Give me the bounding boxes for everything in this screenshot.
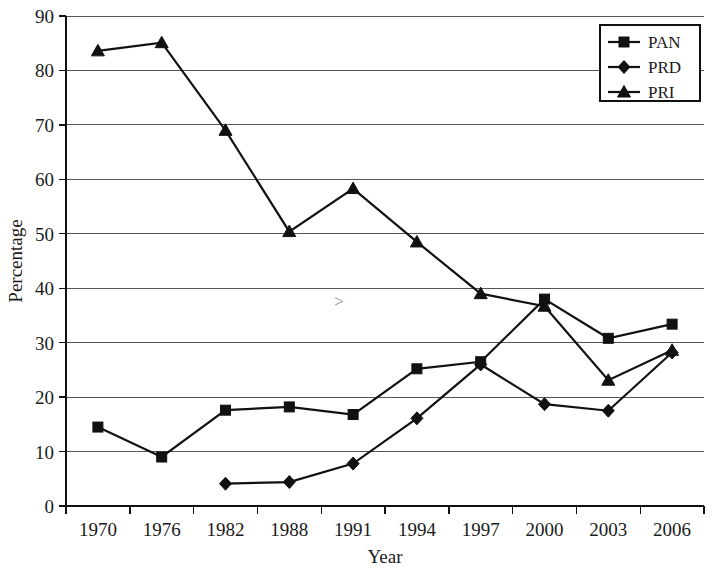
data-point-pan (221, 405, 231, 415)
data-point-pan (667, 319, 677, 329)
x-axis-title: Year (367, 546, 403, 567)
stray-glyph-annotation: > (334, 292, 344, 311)
data-point-pan (157, 452, 167, 462)
y-tick-label: 40 (35, 278, 54, 299)
y-axis-title: Percentage (5, 219, 26, 302)
data-point-pan (603, 333, 613, 343)
data-point-pan (93, 422, 103, 432)
chart-annotations: > (334, 292, 344, 311)
legend-label: PRD (648, 58, 681, 77)
data-point-pan (284, 402, 294, 412)
x-tick-label: 2000 (526, 519, 564, 540)
x-tick-label: 1988 (270, 519, 308, 540)
y-tick-label: 90 (35, 6, 54, 27)
x-tick-label: 1997 (462, 519, 500, 540)
legend-label: PAN (648, 33, 680, 52)
legend-marker-pan (619, 37, 629, 47)
y-tick-label: 10 (35, 442, 54, 463)
y-tick-label: 70 (35, 115, 54, 136)
y-tick-label: 0 (45, 496, 55, 517)
y-tick-label: 30 (35, 333, 54, 354)
y-tick-label: 60 (35, 169, 54, 190)
chart-container: 0102030405060708090 19701976198219881991… (0, 0, 712, 575)
x-tick-label: 1982 (207, 519, 245, 540)
x-tick-label: 1994 (398, 519, 437, 540)
y-tick-label: 50 (35, 224, 54, 245)
y-tick-label: 20 (35, 387, 54, 408)
x-tick-label: 1970 (79, 519, 117, 540)
x-tick-label: 2003 (589, 519, 627, 540)
x-tick-label: 2006 (653, 519, 691, 540)
chart-legend[interactable]: PANPRDPRI (600, 25, 700, 102)
legend-label: PRI (648, 83, 675, 102)
line-chart: 0102030405060708090 19701976198219881991… (0, 0, 712, 575)
y-tick-label: 80 (35, 60, 54, 81)
x-tick-label: 1991 (334, 519, 372, 540)
x-tick-label: 1976 (143, 519, 181, 540)
data-point-pan (412, 364, 422, 374)
data-point-pan (348, 410, 358, 420)
